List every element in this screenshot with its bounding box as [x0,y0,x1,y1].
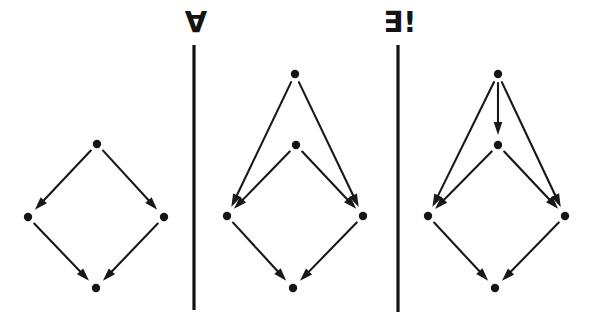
arrow-top-to-left [41,151,91,203]
diagram-svg: ∀∃! [0,0,600,318]
node-bottom [289,284,297,292]
figure-canvas: ∀∃! [0,0,600,318]
node-right [160,213,168,221]
arrow-top-to-right [103,151,151,203]
arrow-right-to-bottom [508,222,558,274]
node-left [223,212,231,220]
arrow-top-to-right [504,152,552,202]
node-right [359,212,367,220]
arrow-apex-to-left [437,82,494,199]
panel-mediating-edges [432,82,560,281]
node-bottom [491,284,499,292]
panel-square-edges [34,151,158,281]
arrow-right-to-bottom [306,222,356,274]
node-apex [494,70,502,78]
arrow-top-to-left [240,151,289,202]
arrow-apex-to-right [502,82,557,198]
arrow-apex-to-right [299,82,355,198]
arrow-left-to-bottom [34,223,82,274]
panel-square [24,140,168,292]
node-bottom [92,284,100,292]
panel-cone [223,70,367,292]
separator-layer [194,45,398,312]
arrow-left-to-bottom [233,223,280,274]
arrow-top-to-right [302,152,350,202]
panel-layer [24,70,569,292]
panel-square-nodes [24,140,168,292]
panel-cone-edges [231,82,358,281]
node-top [93,140,101,148]
arrow-right-to-bottom [109,223,157,274]
node-left [24,213,32,221]
arrowhead-apex-to-top [494,122,503,135]
panel-mediating [424,70,569,292]
arrow-apex-to-left [235,82,291,198]
node-top [494,141,502,149]
for-all-symbol: ∀ [185,5,208,39]
node-top [292,141,300,149]
arrow-left-to-bottom [434,223,482,274]
exists-unique-symbol: ∃! [383,5,416,39]
arrow-top-to-left [442,151,492,202]
node-left [424,212,432,220]
node-right [561,212,569,220]
quantifier-layer: ∀∃! [185,5,417,39]
node-apex [291,70,299,78]
